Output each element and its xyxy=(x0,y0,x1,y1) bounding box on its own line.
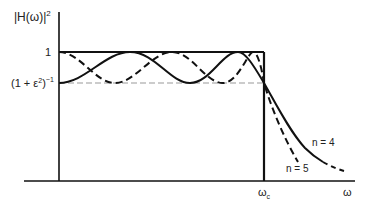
curve-n4 xyxy=(59,52,323,162)
curve-label-n4: n = 4 xyxy=(312,137,335,148)
x-cutoff-label: ωc xyxy=(258,186,271,200)
y-axis-label: |H(ω)|2 xyxy=(14,9,51,24)
x-axis-label: ω xyxy=(343,186,352,198)
chebyshev-diagram: |H(ω)|2 1 (1 + ε2)−1 n = 4 n = 5 ωc ω xyxy=(0,0,366,204)
curve-n4-tail xyxy=(323,162,344,171)
curve-label-n5: n = 5 xyxy=(286,163,309,174)
y-tick-one: 1 xyxy=(45,46,51,58)
y-tick-ripple-floor: (1 + ε2)−1 xyxy=(11,76,54,89)
